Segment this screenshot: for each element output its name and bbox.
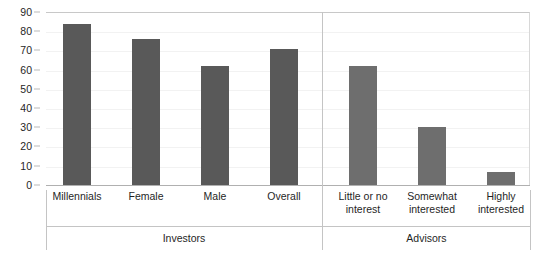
y-tick-label-50: 50 (20, 84, 32, 95)
category-label-somewhat-interested: Somewhatinterested (401, 190, 463, 215)
bar-overall[interactable] (270, 49, 298, 185)
y-tick-label-20: 20 (20, 141, 32, 152)
y-tick-mark-0 (34, 185, 40, 186)
category-labels: Millennials Female Male Overall Little o… (46, 190, 530, 226)
category-label-little-or-no-interest: Little or nointerest (332, 190, 394, 215)
y-tick-mark-90 (34, 12, 40, 13)
x-axis-baseline (46, 185, 530, 186)
category-label-female: Female (115, 190, 177, 203)
bar-little-or-no-interest[interactable] (349, 66, 377, 185)
y-tick-label-0: 0 (26, 180, 32, 191)
category-label-male: Male (184, 190, 246, 203)
group-label-investors: Investors (46, 231, 322, 245)
y-tick-mark-20 (34, 146, 40, 147)
group-separator-right (530, 190, 531, 250)
bar-millennials[interactable] (63, 24, 91, 185)
y-tick-label-40: 40 (20, 103, 32, 114)
bar-female[interactable] (132, 39, 160, 185)
category-label-overall: Overall (253, 190, 315, 203)
y-tick-label-80: 80 (20, 26, 32, 37)
y-tick-mark-10 (34, 165, 40, 166)
bar-male[interactable] (201, 66, 229, 185)
group-label-rule (46, 226, 530, 227)
bar-somewhat-interested[interactable] (418, 127, 446, 185)
bar-highly-interested[interactable] (487, 172, 515, 185)
y-tick-mark-60 (34, 69, 40, 70)
bars-layer (46, 12, 530, 185)
y-tick-mark-50 (34, 88, 40, 89)
y-tick-mark-30 (34, 127, 40, 128)
y-tick-label-10: 10 (20, 160, 32, 171)
group-label-advisors: Advisors (323, 231, 530, 245)
y-tick-label-60: 60 (20, 64, 32, 75)
y-tick-label-30: 30 (20, 122, 32, 133)
category-label-millennials: Millennials (46, 190, 108, 203)
group-separator-middle (322, 12, 323, 250)
y-axis: 90 80 70 60 50 40 30 20 10 0 (0, 0, 46, 190)
bar-chart: 90 80 70 60 50 40 30 20 10 0 (0, 0, 550, 259)
y-tick-mark-80 (34, 31, 40, 32)
y-tick-mark-40 (34, 108, 40, 109)
y-tick-label-90: 90 (20, 7, 32, 18)
y-tick-mark-70 (34, 50, 40, 51)
category-label-highly-interested: Highlyinterested (470, 190, 532, 215)
y-tick-label-70: 70 (20, 45, 32, 56)
